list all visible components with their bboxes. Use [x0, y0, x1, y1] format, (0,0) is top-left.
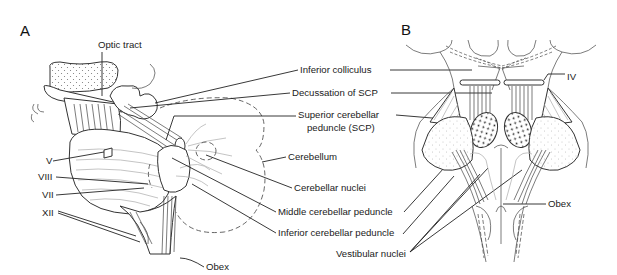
label-cerebellar-nuclei: Cerebellar nuclei: [294, 182, 366, 193]
nerve-v-root: [104, 148, 112, 158]
colliculi-arcs: [468, 40, 536, 56]
label-obex-b: Obex: [548, 198, 571, 209]
fiber-fan: [186, 124, 232, 174]
leader-middle-cp-b: [404, 168, 444, 212]
midbrain-cut-surface: [50, 62, 118, 93]
label-xii: XII: [42, 207, 54, 218]
leader-xii-2: [58, 213, 140, 242]
outline-arc-right: [550, 40, 596, 54]
leader-iv: [544, 74, 565, 80]
leader-cerebellum: [262, 157, 286, 162]
hemisphere-left: [422, 117, 473, 171]
midline-bridge: [494, 145, 508, 148]
label-v: V: [46, 155, 53, 166]
label-inferior-colliculus: Inferior colliculus: [300, 64, 372, 75]
label-vii: VII: [42, 189, 54, 200]
label-optic-tract: Optic tract: [98, 39, 142, 50]
brainstem-cerebellum-figure: A: [0, 0, 617, 275]
outline-arc-left: [406, 40, 452, 54]
nerve-iv-right: [504, 80, 544, 85]
panel-a-brainstem-drawing: [31, 62, 265, 254]
label-scp-line2: peduncle (SCP): [307, 122, 375, 133]
label-decussation-scp: Decussation of SCP: [292, 87, 378, 98]
label-middle-cp: Middle cerebellar peduncle: [278, 206, 393, 217]
leader-middle-cp-a: [172, 158, 276, 212]
leader-xii-1: [58, 211, 136, 236]
nerve-iii-stub: [31, 104, 44, 122]
label-iv: IV: [567, 71, 577, 82]
hemisphere-right: [529, 117, 580, 171]
label-cerebellum: Cerebellum: [288, 151, 337, 162]
leader-obex-a: [180, 258, 204, 267]
leader-vestibular-2: [410, 168, 488, 252]
label-inferior-cp: Inferior cerebellar peduncle: [278, 227, 394, 238]
panel-a: A: [20, 22, 265, 272]
pulvinar-curve: [132, 64, 155, 89]
label-scp-line1: Superior cerebellar: [298, 109, 380, 120]
leader-vestibular-3: [410, 170, 522, 252]
panel-b-letter: B: [401, 21, 411, 38]
leader-scp-a: [166, 116, 296, 140]
label-obex-a: Obex: [206, 261, 229, 272]
label-viii: VIII: [38, 171, 52, 182]
panel-b: B: [401, 21, 596, 262]
panel-a-letter: A: [20, 22, 30, 39]
mcp-shape: [158, 145, 190, 192]
label-vestibular-nuclei: Vestibular nuclei: [336, 248, 406, 259]
pons: [69, 129, 172, 214]
leader-cerebellar-nuclei: [206, 155, 292, 188]
nerve-iv-left: [460, 80, 500, 85]
